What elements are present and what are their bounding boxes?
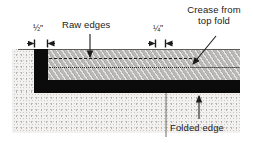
dimension-marker-quarter-inch [148,40,173,48]
crease-label-line-2: top fold [198,15,230,26]
diagram-canvas: ½" ¼" Raw edges Crease from top fold Fol… [0,0,253,143]
dimension-label-half-inch: ½" [33,24,43,33]
dimension-marker-half-inch [27,40,55,48]
folded-edge-label: Folded edge [170,123,224,134]
dimension-label-quarter-inch: ¼" [153,24,163,33]
crease-label-line-1: Crease from [187,4,240,15]
crease-leader-arrow [193,36,216,64]
raw-edges-label: Raw edges [62,20,110,31]
crease-from-top-fold-label: Crease from top fold [176,5,252,26]
